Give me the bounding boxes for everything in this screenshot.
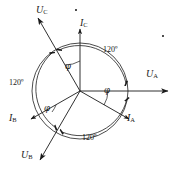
vector-UB — [40, 91, 80, 160]
angle-label-120-top-right: 120º — [103, 46, 117, 54]
sep-arc-left — [36, 53, 56, 128]
vector-label-IB-subscript: B — [12, 116, 16, 123]
vector-UC — [38, 18, 80, 91]
vector-label-UA: UA — [146, 69, 158, 80]
vector-label-UC-subscript: C — [43, 8, 47, 15]
angle-label-phi-c: φ — [65, 62, 71, 71]
angle-label-phi-b: φ — [44, 104, 50, 113]
vector-label-IA: IA — [127, 113, 135, 124]
vector-label-UB-subscript: B — [28, 153, 32, 160]
vector-IA — [80, 91, 129, 119]
vector-label-IC: IC — [80, 18, 88, 29]
phasor-diagram-canvas: UC IC UA IA IB UB φ φ φ 120º 120º 120º — [0, 0, 180, 181]
vector-label-UC: UC — [36, 5, 48, 16]
angle-label-phi-a: φ — [104, 86, 110, 95]
vector-label-UA-subscript: A — [153, 72, 158, 79]
vector-label-IA-subscript: A — [130, 116, 135, 123]
angle-label-120-bottom: 120º — [82, 134, 96, 142]
vector-label-UB: UB — [21, 150, 33, 161]
angle-label-120-left: 120º — [9, 79, 23, 87]
vector-label-IC-subscript: C — [83, 21, 87, 28]
phasor-dot-UC — [75, 9, 77, 11]
vector-label-IB: IB — [9, 113, 17, 124]
phasor-dot-IC — [162, 35, 164, 37]
